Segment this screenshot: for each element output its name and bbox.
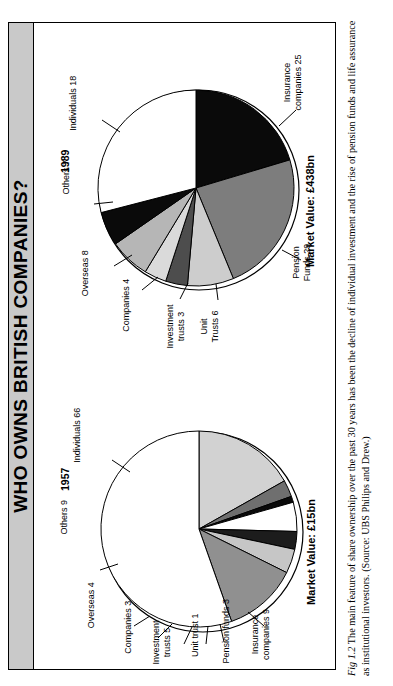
label-investmenttrusts-1957: Investmenttrusts 5 [151,614,172,672]
label-pension-1989: PensionFunds 29 [291,238,312,288]
label-companies-1989: Companies 4 [121,271,132,339]
market-value-1957: Market Value: £15bn [305,497,317,607]
label-pension-1957: Pension funds 3 [221,593,232,669]
caption-body: The main feature of share ownership over… [346,21,371,676]
label-individuals-1989: Individuals 18 [68,68,79,138]
label-others-1957: Others 9 [59,493,70,541]
figure-title-band: WHO OWNS BRITISH COMPANIES? [8,22,34,670]
label-individuals-1957: Individuals 66 [72,400,83,470]
pie-chart-1989 [96,84,306,296]
label-insurance-1957: Insurancecompanies 9 [250,605,271,665]
figure-root: WHO OWNS BRITISH COMPANIES? [0,0,393,686]
caption-figure-number: Fig 1.2 [346,647,357,676]
label-others-1989: Others 7 [61,153,72,201]
page-title: WHO OWNS BRITISH COMPANIES? [10,179,32,512]
label-unittrusts-1989: UnitTrusts 6 [199,306,220,348]
label-overseas-1989: Overseas 8 [80,244,91,302]
label-unittrust-1957: Unit trust 1 [190,606,201,664]
label-companies-1957: Companies 3 [123,595,134,659]
label-insurance-1989: Insurancecompanies 25 [282,53,303,113]
label-investmenttrusts-1989: Investmenttrusts 3 [165,298,186,356]
label-overseas-1957: Overseas 4 [86,576,97,634]
figure-caption: Fig 1.2 The main feature of share owners… [345,16,372,676]
chart-year-1957: 1957 [59,461,71,491]
